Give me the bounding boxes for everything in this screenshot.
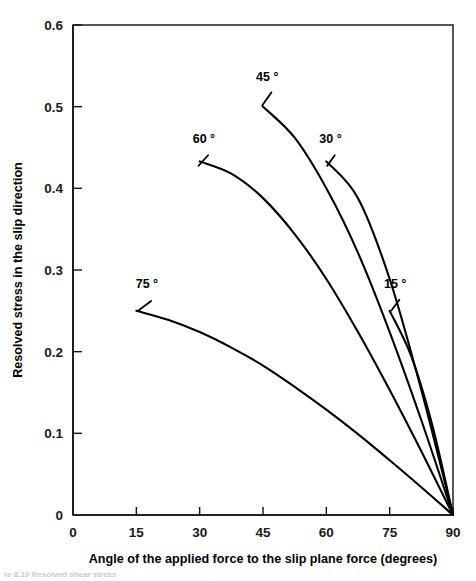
y-tick-label: 0.4 xyxy=(44,181,63,196)
x-tick-label: 60 xyxy=(319,525,334,540)
curve-label: 15 ° xyxy=(384,277,406,291)
x-tick-label: 90 xyxy=(445,525,460,540)
x-tick-label: 30 xyxy=(192,525,207,540)
curve-label: 45 ° xyxy=(256,70,278,84)
curve-label: 75 ° xyxy=(136,277,158,291)
x-axis-title: Angle of the applied force to the slip p… xyxy=(89,552,437,566)
y-tick-label: 0.1 xyxy=(44,426,63,441)
y-axis-title: Resolved stress in the slip direction xyxy=(11,162,25,378)
y-tick-label: 0.3 xyxy=(44,263,63,278)
x-tick-label: 0 xyxy=(69,525,77,540)
curve-label: 30 ° xyxy=(319,132,341,146)
figure-caption: re 8.10 Resolved shear stress xyxy=(4,570,117,579)
figure-container: 0153045607590 00.10.20.30.40.50.6 75 °60… xyxy=(0,0,476,581)
resolved-stress-chart: 0153045607590 00.10.20.30.40.50.6 75 °60… xyxy=(0,0,476,581)
curve-label: 60 ° xyxy=(193,132,215,146)
y-tick-label: 0.5 xyxy=(44,100,63,115)
y-tick-label: 0.6 xyxy=(44,18,63,33)
x-tick-label: 15 xyxy=(129,525,145,540)
y-tick-label: 0.2 xyxy=(44,345,63,360)
x-tick-label: 75 xyxy=(382,525,398,540)
x-tick-label: 45 xyxy=(255,525,271,540)
y-tick-label: 0 xyxy=(55,508,63,523)
